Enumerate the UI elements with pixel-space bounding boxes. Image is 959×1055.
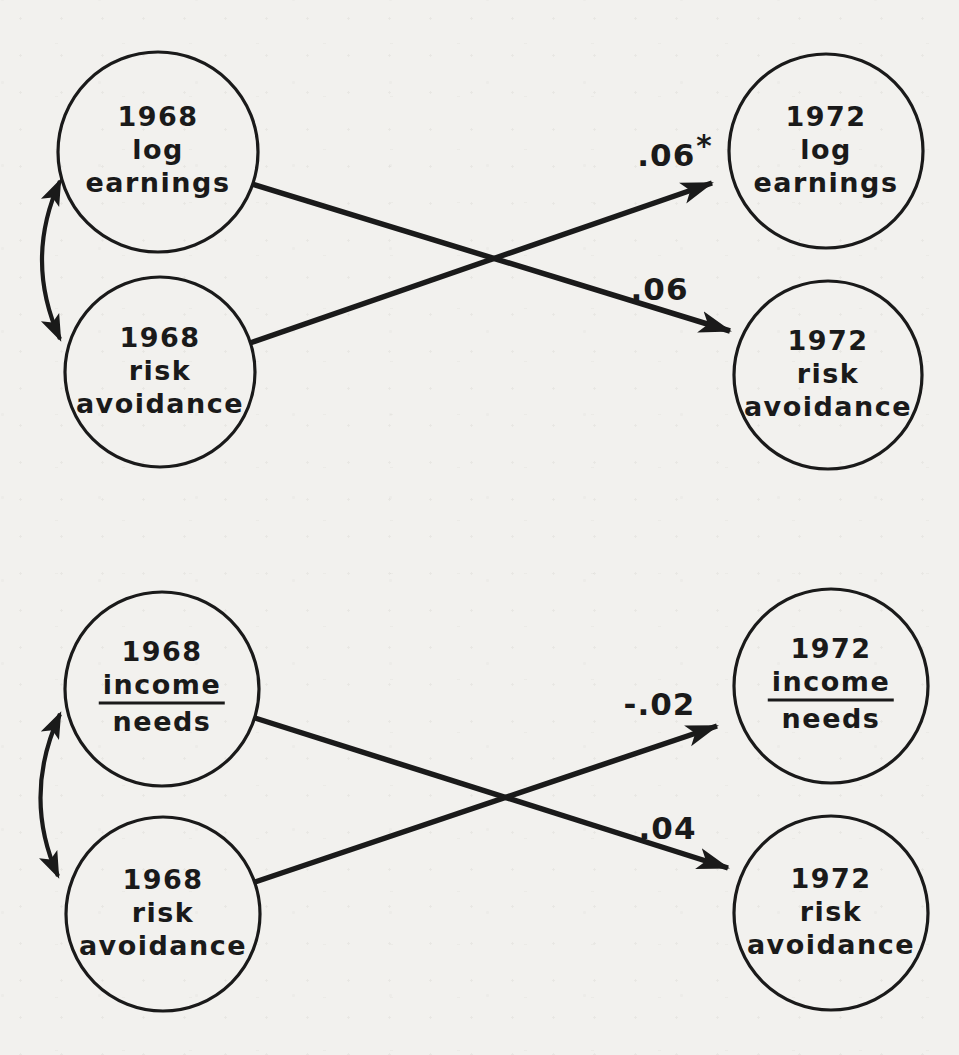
node-line-year: 1972 (754, 100, 899, 133)
node-line: risk (79, 896, 247, 929)
node-line: risk (76, 354, 244, 387)
coef-label-risk-to-earnings: .06* (637, 129, 712, 173)
node-line: avoidance (744, 390, 912, 423)
node-line-year: 1968 (86, 100, 231, 133)
node-line: log (754, 133, 899, 166)
node-line-year: 1968 (79, 863, 247, 896)
node-label-1972-log-earnings: 1972 log earnings (754, 100, 899, 199)
node-label-1968-log-earnings: 1968 log earnings (86, 100, 231, 199)
significance-asterisk: * (696, 129, 712, 163)
node-line: avoidance (747, 928, 915, 961)
node-line: risk (744, 357, 912, 390)
node-label-1968-risk-avoidance-top-panel: 1968 risk avoidance (76, 321, 244, 420)
fraction-denominator: needs (768, 702, 894, 735)
coef-label-risk-to-income: -.02 (624, 678, 697, 722)
node-label-1972-risk-avoidance-bottom-panel: 1972 risk avoidance (747, 862, 915, 961)
fraction: income needs (768, 665, 894, 735)
coef-value: .06 (631, 271, 689, 307)
coef-value: .06 (637, 137, 695, 173)
fraction-denominator: needs (99, 705, 225, 738)
coef-label-earnings-to-risk: .06 (631, 263, 690, 307)
coef-label-income-to-risk: .04 (639, 802, 698, 846)
node-label-1972-income-needs: 1972 income needs (768, 632, 894, 735)
node-line-year: 1968 (99, 635, 225, 668)
coef-value: -.02 (624, 686, 696, 722)
node-label-1968-income-needs: 1968 income needs (99, 635, 225, 738)
node-line-year: 1968 (76, 321, 244, 354)
correlation-arrow-income-panel (40, 714, 60, 876)
scanned-figure-page: 1968 log earnings 1968 risk avoidance 19… (0, 0, 959, 1055)
fraction-numerator: income (99, 668, 225, 705)
correlation-arrow-earnings-panel (42, 181, 60, 339)
node-label-1972-risk-avoidance-top-panel: 1972 risk avoidance (744, 324, 912, 423)
node-line: earnings (86, 166, 231, 199)
node-line-year: 1972 (747, 862, 915, 895)
node-line: log (86, 133, 231, 166)
fraction: income needs (99, 668, 225, 738)
node-line-year: 1972 (744, 324, 912, 357)
coef-value: .04 (639, 810, 697, 846)
node-line: earnings (754, 166, 899, 199)
node-line: avoidance (76, 387, 244, 420)
node-line: risk (747, 895, 915, 928)
fraction-numerator: income (768, 665, 894, 702)
node-label-1968-risk-avoidance-bottom-panel: 1968 risk avoidance (79, 863, 247, 962)
node-line-year: 1972 (768, 632, 894, 665)
node-line: avoidance (79, 929, 247, 962)
